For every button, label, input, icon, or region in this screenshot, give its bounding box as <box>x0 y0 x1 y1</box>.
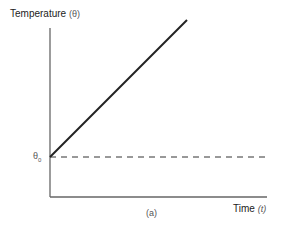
temperature-line <box>50 20 187 157</box>
x-axis-symbol: (t) <box>258 204 267 214</box>
figure-caption: (a) <box>146 208 157 218</box>
x-axis-label: Time (t) <box>233 203 266 214</box>
y-axis-symbol: (θ) <box>69 9 80 19</box>
theta0-tick-label: θ0 <box>33 151 41 163</box>
y-axis-label: Temperature (θ) <box>10 8 80 19</box>
x-axis-title: Time <box>233 203 255 214</box>
theta-subscript: 0 <box>38 157 41 163</box>
chart-canvas <box>0 0 283 235</box>
y-axis-title: Temperature <box>10 8 66 19</box>
